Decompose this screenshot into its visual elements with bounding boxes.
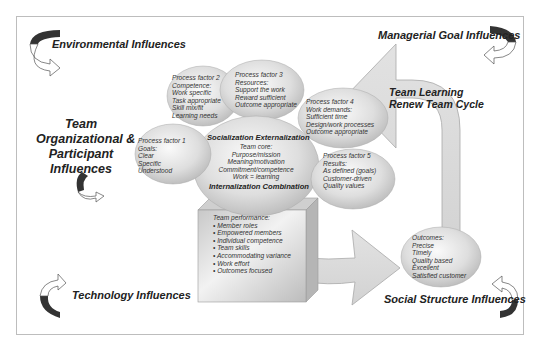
team-org-line-2: Organizational &: [36, 132, 126, 147]
pf3-line: Reward sufficient: [235, 94, 297, 102]
pf3-line: Outcome appropriate: [235, 101, 297, 109]
performance-item: Empowered members: [213, 229, 291, 237]
team-performance-text: Team performance: Member roles Empowered…: [213, 214, 291, 275]
pf2-line: Skill mix/fit: [172, 104, 221, 112]
outcomes-text: Outcomes: Precise Timely Quality based E…: [412, 234, 466, 280]
pf1-line: Goals:: [138, 145, 186, 153]
pf4-line: Design/work processes: [306, 121, 374, 129]
cycle-line-2: Renew Team Cycle: [389, 98, 484, 110]
managerial-goal-influences-label: Managerial Goal Influences: [378, 29, 520, 41]
pf1-line: Clear: [138, 152, 186, 160]
pf5-line: Results:: [323, 160, 376, 168]
pf4-line: Outcome appropriate: [306, 128, 374, 136]
team-org-line-3: Participant: [36, 147, 126, 162]
pf1-line: Understood: [138, 167, 186, 175]
performance-item: Outcomes focused: [213, 267, 291, 275]
technology-influences-label: Technology Influences: [72, 289, 191, 301]
pf2-title: Process factor 2: [172, 74, 221, 82]
team-org-line-1: Team: [36, 117, 126, 132]
outcomes-line: Outcomes:: [412, 234, 466, 242]
pf2-line: Task appropriate: [172, 97, 221, 105]
performance-title: Team performance:: [213, 214, 291, 222]
pf1-line: Specific: [138, 160, 186, 168]
performance-item: Team skills: [213, 244, 291, 252]
process-factor-1-text: Process factor 1 Goals: Clear Specific U…: [138, 137, 186, 175]
performance-item: Member roles: [213, 222, 291, 230]
environmental-curl-arrow-icon: [30, 30, 60, 76]
outcomes-line: Precise: [412, 242, 466, 250]
process-factor-3-text: Process factor 3 Resources: Support the …: [235, 71, 297, 109]
pf5-line: Quality values: [323, 182, 376, 190]
core-line: Purpose/mission: [216, 151, 296, 159]
outcomes-line: Excellent: [412, 264, 466, 272]
team-core-text: Team core: Purpose/mission Meaning/motiv…: [216, 143, 296, 181]
pf4-line: Sufficient time: [306, 113, 374, 121]
pf5-title: Process factor 5: [323, 152, 376, 160]
team-org-line-4: Influences: [36, 162, 126, 177]
performance-item: Accommodating variance: [213, 252, 291, 260]
pf3-line: Resources:: [235, 79, 297, 87]
process-factor-5-text: Process factor 5 Results: As defined (go…: [323, 152, 376, 190]
performance-list: Member roles Empowered members Individua…: [213, 222, 291, 275]
outcomes-line: Quality based: [412, 257, 466, 265]
pf4-title: Process factor 4: [306, 98, 374, 106]
internalization-combination-heading: Internalization Combination: [209, 182, 309, 191]
pf2-line: Learning needs: [172, 112, 221, 120]
pf3-title: Process factor 3: [235, 71, 297, 79]
outcomes-line: Satisfied customer: [412, 272, 466, 280]
performance-item: Work effort: [213, 260, 291, 268]
social-structure-influences-label: Social Structure Influences: [384, 293, 526, 305]
core-line: Work = learning: [216, 173, 296, 181]
pf1-title: Process factor 1: [138, 137, 186, 145]
team-organizational-participant-influences-label: Team Organizational & Participant Influe…: [36, 117, 126, 177]
core-line: Commitment/competence: [216, 166, 296, 174]
process-factor-4-text: Process factor 4 Work demands: Sufficien…: [306, 98, 374, 136]
cycle-line-1: Team Learning: [389, 86, 484, 98]
pf2-line: Work specific: [172, 89, 221, 97]
performance-item: Individual competence: [213, 237, 291, 245]
socialization-externalization-heading: Socialization Externalization: [207, 133, 310, 142]
core-line: Meaning/motivation: [216, 158, 296, 166]
pf3-line: Support the work: [235, 86, 297, 94]
core-line: Team core:: [216, 143, 296, 151]
technology-curl-arrow-icon: [40, 274, 66, 318]
environmental-influences-label: Environmental Influences: [52, 38, 186, 50]
pf5-line: Customer-driven: [323, 175, 376, 183]
team-learning-cycle-label: Team Learning Renew Team Cycle: [389, 86, 484, 110]
pf5-line: As defined (goals): [323, 167, 376, 175]
pf2-line: Competence:: [172, 82, 221, 90]
pf4-line: Work demands:: [306, 106, 374, 114]
process-factor-2-text: Process factor 2 Competence: Work specif…: [172, 74, 221, 120]
outcomes-line: Timely: [412, 249, 466, 257]
